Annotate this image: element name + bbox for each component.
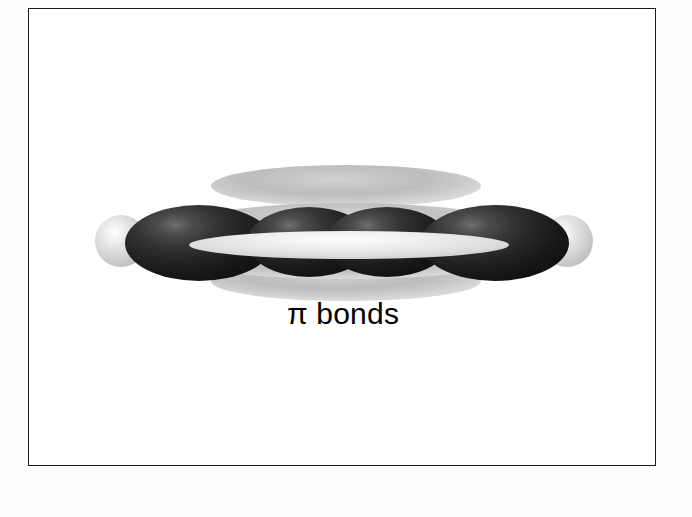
page-canvas: π bonds [0,0,692,517]
figure-frame: π bonds [28,8,656,466]
sigma-bond-lens [189,231,509,259]
figure-caption: π bonds [29,297,657,331]
pi-lobe-top [211,165,481,207]
orbital-diagram: π bonds [29,9,657,467]
